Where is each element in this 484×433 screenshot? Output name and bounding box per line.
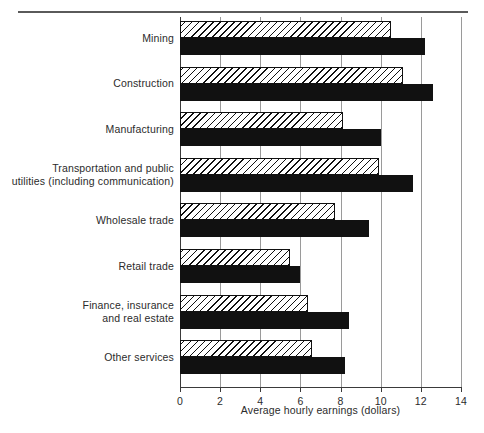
bar-hatched (180, 112, 343, 129)
x-tick-14 (461, 387, 462, 392)
category-label-line: Transportation and public (2, 162, 174, 175)
bar-hatched (180, 203, 335, 220)
category-label: Other services (2, 351, 174, 364)
gridline-x-14 (461, 17, 462, 388)
category-label: Transportation and publicutilities (incl… (2, 162, 174, 187)
bar-solid (180, 129, 381, 146)
category-label-line: Retail trade (2, 260, 174, 273)
x-tick-0 (180, 387, 181, 392)
top-rule-divider (18, 11, 468, 13)
bar-solid (180, 84, 433, 101)
bar-hatched (180, 249, 290, 266)
gridline-x-12 (421, 17, 422, 388)
category-label: Finance, insuranceand real estate (2, 299, 174, 324)
bar-hatched (180, 21, 391, 38)
bar-hatched (180, 158, 379, 175)
category-label: Mining (2, 32, 174, 45)
category-label-line: Manufacturing (2, 123, 174, 136)
bar-solid (180, 312, 349, 329)
category-label-line: utilities (including communication) (2, 175, 174, 188)
category-label-line: Finance, insurance (2, 299, 174, 312)
x-axis-line (180, 387, 461, 388)
bar-solid (180, 220, 369, 237)
bar-hatched (180, 340, 312, 357)
bar-hatched (180, 295, 308, 312)
category-label-line: Wholesale trade (2, 214, 174, 227)
category-label: Manufacturing (2, 123, 174, 136)
category-label: Construction (2, 77, 174, 90)
category-label-line: and real estate (2, 312, 174, 325)
bar-solid (180, 38, 425, 55)
x-tick-8 (341, 387, 342, 392)
category-label: Retail trade (2, 260, 174, 273)
x-tick-6 (300, 387, 301, 392)
bar-solid (180, 175, 413, 192)
category-label-line: Construction (2, 77, 174, 90)
horizontal-bar-chart-figure: MiningConstructionManufacturingTransport… (0, 0, 484, 433)
category-label-column: MiningConstructionManufacturingTransport… (0, 17, 174, 388)
bar-solid (180, 266, 300, 283)
plot-area: 02468101214 (180, 17, 461, 388)
bar-solid (180, 357, 345, 374)
category-label-line: Other services (2, 351, 174, 364)
x-tick-10 (381, 387, 382, 392)
category-label: Wholesale trade (2, 214, 174, 227)
x-tick-4 (260, 387, 261, 392)
x-tick-2 (220, 387, 221, 392)
x-axis-title: Average hourly earnings (dollars) (180, 404, 461, 416)
category-label-line: Mining (2, 32, 174, 45)
x-tick-12 (421, 387, 422, 392)
bar-hatched (180, 67, 403, 84)
